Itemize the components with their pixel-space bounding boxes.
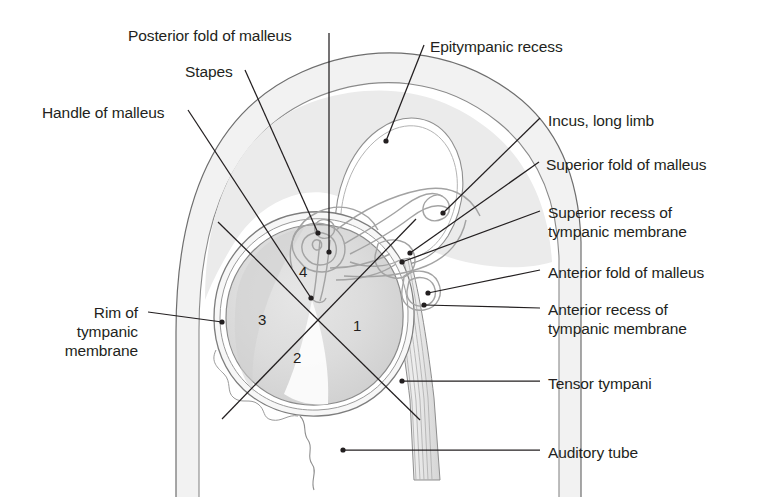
- label-rim-of-tympanic-membrane: Rim of tympanic membrane: [18, 303, 138, 360]
- label-auditory-tube: Auditory tube: [548, 443, 638, 462]
- label-handle-of-malleus: Handle of malleus: [42, 103, 164, 122]
- quadrant-1-number: 1: [353, 317, 361, 334]
- leader-posterior-fold-of-malleus-endpoint-dot: [326, 249, 331, 254]
- leader-rim-of-tympanic-membrane-endpoint-dot: [219, 319, 224, 324]
- label-epitympanic-recess: Epitympanic recess: [430, 37, 563, 56]
- label-anterior-recess-of-tympanic-membrane: Anterior recess of tympanic membrane: [548, 300, 687, 338]
- leader-superior-recess-endpoint-dot: [399, 259, 404, 264]
- label-anterior-fold-of-malleus: Anterior fold of malleus: [548, 263, 704, 282]
- leader-tensor-tympani-endpoint-dot: [399, 378, 404, 383]
- label-superior-recess-of-tympanic-membrane: Superior recess of tympanic membrane: [548, 203, 687, 241]
- label-posterior-fold-of-malleus: Posterior fold of malleus: [128, 26, 292, 45]
- leader-anterior-recess-endpoint-dot: [421, 302, 426, 307]
- label-tensor-tympani: Tensor tympani: [548, 374, 652, 393]
- leader-incus-long-limb-endpoint-dot: [440, 210, 445, 215]
- leader-stapes-endpoint-dot: [315, 230, 320, 235]
- label-superior-fold-of-malleus: Superior fold of malleus: [546, 155, 706, 174]
- quadrant-4-number: 4: [299, 263, 307, 280]
- label-stapes: Stapes: [185, 62, 233, 81]
- quadrant-2-number: 2: [293, 349, 301, 366]
- leader-anterior-fold-of-malleus-endpoint-dot: [425, 290, 430, 295]
- quadrant-3-number: 3: [258, 311, 266, 328]
- label-incus-long-limb: Incus, long limb: [548, 111, 654, 130]
- leader-superior-fold-of-malleus-endpoint-dot: [407, 250, 412, 255]
- ear-anatomy-diagram: [0, 0, 770, 497]
- leader-epitympanic-recess-endpoint-dot: [383, 138, 388, 143]
- leader-handle-of-malleus-endpoint-dot: [308, 295, 313, 300]
- figure-canvas: Posterior fold of malleusStapesHandle of…: [0, 0, 770, 497]
- leader-auditory-tube-endpoint-dot: [340, 447, 345, 452]
